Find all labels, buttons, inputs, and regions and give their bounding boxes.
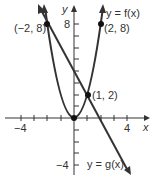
- f-label: y = f(x): [106, 7, 140, 19]
- tick-label-x-neg4: −4: [14, 122, 27, 134]
- f-right-arrow-icon: [99, 4, 106, 13]
- point-1-2: [85, 92, 91, 98]
- tick-label-y-8: 8: [64, 18, 70, 30]
- y-ticks: [74, 24, 79, 165]
- point-label-intersection: (1, 2): [92, 89, 118, 101]
- y-axis-arrow-icon: [71, 5, 77, 12]
- g-label: y = g(x): [87, 158, 124, 170]
- graph: y x y = f(x) y = g(x) (−2, 8) (2, 8) (1,…: [0, 0, 158, 175]
- y-axis-label: y: [61, 3, 69, 15]
- point-label-right: (2, 8): [104, 22, 130, 34]
- tick-label-x-4: 4: [124, 122, 130, 134]
- tick-label-y-neg4: −4: [56, 159, 69, 171]
- point-origin: [71, 115, 77, 121]
- x-axis-label: x: [142, 121, 149, 133]
- point-label-left: (−2, 8): [14, 22, 46, 34]
